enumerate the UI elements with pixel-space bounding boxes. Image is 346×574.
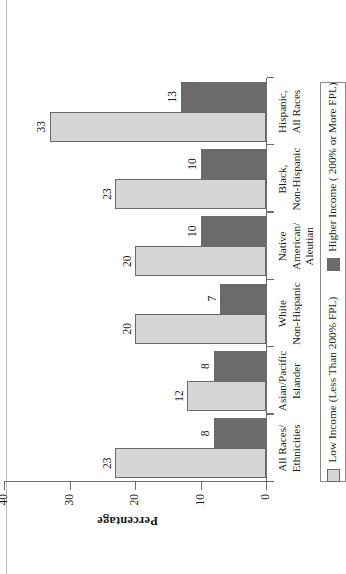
y-axis-tick bbox=[135, 481, 136, 490]
bar-value-label: 12 bbox=[174, 390, 186, 402]
category-label-line: Ethnicities bbox=[290, 416, 304, 481]
category-labels: All Races/EthnicitiesAsian/PacificIsland… bbox=[276, 78, 320, 482]
bar-higher-income: 7 bbox=[220, 284, 266, 314]
y-axis-tick bbox=[266, 481, 267, 490]
category-label-line: Black, bbox=[276, 146, 290, 211]
category-label-line: Hispanic, bbox=[276, 79, 290, 144]
bar-groups: 238128207201023103313 bbox=[4, 78, 266, 482]
category-label: WhiteNon-Hispanic bbox=[276, 280, 320, 347]
bar-group: 3313 bbox=[4, 78, 266, 145]
bar-value-label: 23 bbox=[102, 188, 114, 200]
bar-value-label: 8 bbox=[200, 430, 212, 436]
bar-higher-income: 10 bbox=[201, 149, 267, 179]
bar-higher-income: 10 bbox=[201, 216, 267, 246]
category-label-line: Asian/Pacific bbox=[276, 348, 290, 413]
category-tick bbox=[267, 211, 274, 212]
legend-item-higher-income: Higher Income ( 200% or More FPL) bbox=[327, 82, 340, 270]
category-label-line: White bbox=[276, 281, 290, 346]
legend-swatch-higher-income bbox=[327, 258, 340, 271]
category-label-line: All Races/ bbox=[276, 416, 290, 481]
bar-group: 207 bbox=[4, 280, 266, 347]
bar-higher-income: 13 bbox=[181, 82, 266, 112]
category-label: All Races/Ethnicities bbox=[276, 415, 320, 482]
y-axis-title: Percentage bbox=[68, 513, 188, 528]
y-axis-tick-label: 10 bbox=[195, 494, 207, 522]
category-label-line: Non-Hispanic bbox=[290, 281, 304, 346]
y-axis-tick bbox=[4, 481, 5, 490]
legend-swatch-low-income bbox=[327, 469, 340, 482]
legend-label-low-income: Low Income (Less Than 200% FPL) bbox=[327, 297, 338, 463]
bar-value-label: 8 bbox=[200, 363, 212, 369]
category-label-line: Islander bbox=[290, 348, 304, 413]
bar-value-label: 10 bbox=[187, 226, 199, 238]
category-label: Asian/PacificIslander bbox=[276, 347, 320, 414]
bar-value-label: 7 bbox=[207, 296, 219, 302]
y-axis-tick-label: 0 bbox=[260, 494, 272, 522]
y-axis-tick bbox=[201, 481, 202, 490]
bar-low-income: 20 bbox=[135, 314, 266, 344]
bar-higher-income: 8 bbox=[214, 351, 266, 381]
chart-legend: Low Income (Less Than 200% FPL) Higher I… bbox=[320, 82, 346, 482]
category-label: Native American/Aleutian Eskimo bbox=[276, 213, 320, 280]
bar-low-income: 20 bbox=[135, 246, 266, 276]
category-tick bbox=[267, 413, 274, 414]
bar-value-label: 20 bbox=[122, 323, 134, 335]
category-label: Black,Non-Hispanic bbox=[276, 145, 320, 212]
bar-group: 2010 bbox=[4, 213, 266, 280]
category-tick bbox=[267, 77, 274, 78]
category-tick-marks bbox=[267, 78, 274, 482]
category-tick bbox=[267, 346, 274, 347]
bar-value-label: 20 bbox=[122, 256, 134, 268]
bar-higher-income: 8 bbox=[214, 418, 266, 448]
y-axis-tick-label: 40 bbox=[0, 494, 10, 522]
bar-value-label: 33 bbox=[36, 121, 48, 133]
category-tick bbox=[267, 481, 274, 482]
category-label-line: All Races bbox=[290, 79, 304, 144]
category-label: Hispanic,All Races bbox=[276, 78, 320, 145]
bar-group: 238 bbox=[4, 415, 266, 482]
bar-low-income: 12 bbox=[187, 381, 266, 411]
bar-value-label: 10 bbox=[187, 158, 199, 170]
legend-label-higher-income: Higher Income ( 200% or More FPL) bbox=[327, 82, 338, 251]
category-label-line: Non-Hispanic bbox=[290, 146, 304, 211]
y-axis-tick-label: 30 bbox=[64, 494, 76, 522]
category-tick bbox=[267, 144, 274, 145]
legend-item-low-income: Low Income (Less Than 200% FPL) bbox=[327, 297, 340, 482]
y-axis-tick bbox=[70, 481, 71, 490]
bar-group: 2310 bbox=[4, 145, 266, 212]
bar-value-label: 13 bbox=[167, 91, 179, 103]
bar-low-income: 23 bbox=[115, 448, 266, 478]
bar-value-label: 23 bbox=[102, 458, 114, 470]
category-label-line: Native American/ bbox=[276, 214, 303, 279]
bar-low-income: 33 bbox=[50, 112, 266, 142]
bar-group: 128 bbox=[4, 347, 266, 414]
bar-low-income: 23 bbox=[115, 179, 266, 209]
category-tick bbox=[267, 279, 274, 280]
y-axis-tick-label: 20 bbox=[129, 494, 141, 522]
